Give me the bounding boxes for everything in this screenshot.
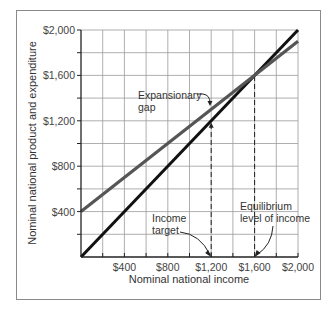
annotation-income-target: Income <box>152 212 187 224</box>
y-tick-label: $1,200 <box>43 115 75 127</box>
y-tick-label: $800 <box>52 160 76 172</box>
y-axis-label: Nominal national product and expenditure <box>26 41 38 245</box>
arrowhead <box>208 101 213 106</box>
arrowhead <box>255 250 261 257</box>
annotation-equilibrium: Equilibrium <box>240 200 292 212</box>
x-tick-label: $1,600 <box>239 261 271 273</box>
y-tick-label: $400 <box>52 206 76 218</box>
y-tick-label: $1,600 <box>43 69 75 81</box>
leader-income-target <box>180 232 210 255</box>
annotation-income-target: target <box>152 224 179 236</box>
x-tick-label: $1,200 <box>195 261 227 273</box>
x-tick-label: $800 <box>156 261 180 273</box>
x-tick-label: $2,000 <box>282 261 314 273</box>
leader-equilibrium <box>257 226 273 255</box>
x-axis-label: Nominal national income <box>129 273 249 285</box>
annotation-equilibrium: level of income <box>240 212 310 224</box>
annotation-expansionary-gap: gap <box>138 101 156 113</box>
annotations: ExpansionarygapIncometargetEquilibriumle… <box>138 89 310 257</box>
chart: $400$800$1,200$1,600$2,000$400$800$1,200… <box>0 0 333 320</box>
arrowhead <box>205 250 211 257</box>
x-tick-label: $400 <box>113 261 137 273</box>
y-tick-label: $2,000 <box>43 24 75 36</box>
annotation-expansionary-gap: Expansionary <box>138 89 202 101</box>
